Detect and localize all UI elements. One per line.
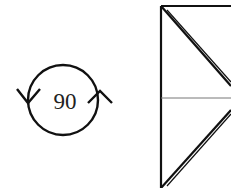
rotation-angle-label: 90: [54, 89, 77, 114]
rotate-90-icon: 90: [17, 65, 112, 135]
diagonal-top: [161, 6, 231, 86]
paper-square: [161, 6, 231, 188]
diagonal-bottom: [161, 110, 231, 188]
fold-diagram: 90: [0, 0, 231, 188]
